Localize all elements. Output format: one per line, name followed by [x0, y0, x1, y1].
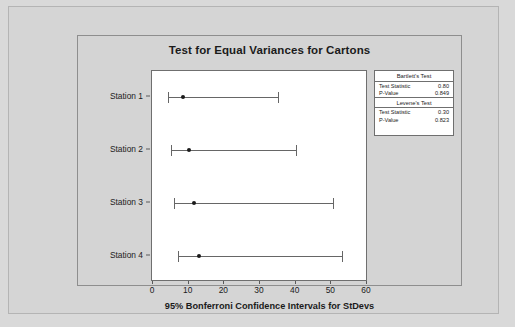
x-axis-tick-label: 30 — [254, 285, 263, 295]
graph-window: Test for Equal Variances for Cartons Sta… — [77, 35, 462, 286]
interval-lower-cap — [178, 251, 179, 262]
x-axis-tick — [188, 281, 189, 284]
levene-p-value-label: P-Value — [379, 117, 399, 123]
bartlett-p-value-row: P-Value 0.849 — [375, 89, 453, 97]
interval-estimate-marker — [187, 148, 191, 152]
levene-test-statistic-value: 0.30 — [438, 109, 449, 115]
plot-area — [151, 70, 367, 281]
plot-inner — [152, 71, 366, 280]
x-axis-title: 95% Bonferroni Confidence Intervals for … — [78, 301, 461, 311]
interval-estimate-marker — [197, 254, 201, 258]
bartlett-test-statistic-value: 0.80 — [438, 83, 449, 89]
bartlett-test-statistic-label: Test Statistic — [379, 83, 410, 89]
bartlett-test-title: Bartlett's Test — [375, 71, 453, 81]
confidence-interval-line — [174, 203, 333, 204]
interval-lower-cap — [174, 198, 175, 209]
interval-lower-cap — [168, 92, 169, 103]
levene-test-statistic-row: Test Statistic 0.30 — [375, 108, 453, 116]
bartlett-p-value-label: P-Value — [379, 90, 399, 96]
levene-test-statistic-label: Test Statistic — [379, 109, 410, 115]
chart-title: Test for Equal Variances for Cartons — [78, 44, 461, 56]
interval-estimate-marker — [181, 95, 185, 99]
screenshot-root: Test for Equal Variances for Cartons Sta… — [0, 0, 515, 327]
x-axis-tick-label: 20 — [219, 285, 228, 295]
levene-p-value-row: P-Value 0.823 — [375, 116, 453, 124]
x-axis-tick — [259, 281, 260, 284]
x-axis-tick-label: 60 — [361, 285, 370, 295]
interval-lower-cap — [171, 145, 172, 156]
y-axis-tick — [146, 96, 150, 97]
y-axis-labels: Station 1Station 2Station 3Station 4 — [78, 70, 151, 281]
y-axis-label: Station 1 — [110, 91, 143, 101]
page-frame: Test for Equal Variances for Cartons Sta… — [8, 6, 499, 314]
y-axis-label: Station 3 — [110, 197, 143, 207]
interval-upper-cap — [333, 198, 334, 209]
bartlett-p-value-value: 0.849 — [435, 90, 449, 96]
interval-estimate-marker — [192, 201, 196, 205]
levene-test-title: Levene's Test — [375, 98, 453, 108]
interval-upper-cap — [342, 251, 343, 262]
x-axis-tick — [223, 281, 224, 284]
x-axis-tick — [295, 281, 296, 284]
x-axis-tick-label: 50 — [326, 285, 335, 295]
confidence-interval-line — [178, 256, 342, 257]
interval-upper-cap — [278, 92, 279, 103]
x-axis-tick — [366, 281, 367, 284]
y-axis-tick — [146, 201, 150, 202]
x-axis-tick-label: 40 — [290, 285, 299, 295]
interval-upper-cap — [296, 145, 297, 156]
x-axis-tick — [152, 281, 153, 284]
x-axis-tick — [330, 281, 331, 284]
x-axis-tick-label: 10 — [183, 285, 192, 295]
y-axis-tick — [146, 149, 150, 150]
y-axis-tick — [146, 254, 150, 255]
statistics-panel: Bartlett's Test Test Statistic 0.80 P-Va… — [374, 70, 454, 136]
levene-p-value-value: 0.823 — [435, 117, 449, 123]
y-axis-label: Station 4 — [110, 250, 143, 260]
bartlett-test-statistic-row: Test Statistic 0.80 — [375, 82, 453, 90]
x-axis-tick-label: 0 — [150, 285, 155, 295]
y-axis-label: Station 2 — [110, 144, 143, 154]
